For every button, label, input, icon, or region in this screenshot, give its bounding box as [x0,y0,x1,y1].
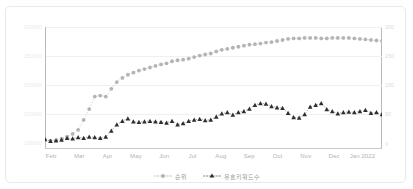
data-point-triangle [225,110,230,114]
left-y-tick: 250000 [8,53,42,59]
data-point-triangle [264,102,269,106]
data-point-triangle [131,119,136,123]
data-point-circle [137,69,141,73]
data-point-triangle [203,118,208,122]
chart-legend: 순위 유효키워드수 [6,169,407,183]
data-point-circle [380,39,382,43]
x-tick-label: Jul [189,153,197,159]
data-point-circle [281,38,285,42]
data-point-circle [242,44,246,48]
data-point-circle [104,95,108,99]
x-tick-label: Aug [215,153,226,159]
right-y-axis: 200 150 100 50 0 [385,27,413,149]
data-point-circle [154,64,158,68]
data-point-circle [214,50,218,54]
data-point-circle [126,73,130,77]
data-point-circle [115,80,119,84]
data-point-circle [248,43,252,47]
circle-marker-icon [154,172,172,180]
data-point-triangle [81,136,86,140]
data-point-circle [264,41,268,45]
legend-item-keywords[interactable]: 유효키워드수 [203,172,260,181]
series-유효키워드수 [45,101,382,143]
data-point-triangle [324,107,329,111]
data-point-triangle [208,117,213,121]
data-point-circle [87,107,91,111]
legend-label-rank: 순위 [175,172,187,181]
right-y-tick: 200 [385,24,411,30]
data-point-circle [292,37,296,41]
data-point-circle [336,36,340,40]
data-point-triangle [115,122,120,126]
data-point-triangle [253,103,258,107]
data-point-circle [109,87,113,91]
x-tick-label: May [130,153,142,159]
data-point-circle [159,62,163,66]
data-point-triangle [269,104,274,108]
x-tick-label: Dec [329,153,340,159]
data-point-circle [231,46,235,50]
data-point-circle [236,45,240,49]
data-point-triangle [231,113,236,117]
data-point-triangle [363,108,368,112]
data-point-circle [120,76,124,80]
data-point-triangle [76,135,81,139]
series-순위 [45,36,382,143]
data-point-circle [341,36,345,40]
series-line [45,38,382,141]
data-point-circle [325,37,329,41]
data-point-circle [308,36,312,40]
data-point-circle [148,66,152,70]
data-point-triangle [45,137,47,141]
x-tick-label: Oct [273,153,283,159]
data-point-circle [286,37,290,41]
right-y-tick: 0 [385,141,411,147]
data-point-triangle [242,109,247,113]
x-tick-label: Feb [46,153,57,159]
right-y-tick: 150 [385,53,411,59]
data-point-triangle [126,116,131,120]
triangle-marker-icon [203,172,221,180]
data-point-circle [170,59,174,63]
data-point-triangle [286,111,291,115]
x-tick-label: Jun [159,153,169,159]
data-point-circle [375,39,379,43]
left-y-tick: 300000 [8,24,42,30]
legend-label-keywords: 유효키워드수 [224,172,260,181]
data-point-triangle [87,135,92,139]
data-point-circle [369,38,373,42]
data-point-circle [347,36,351,40]
x-tick-label: Apr [103,153,113,159]
data-point-triangle [219,111,224,115]
data-point-circle [181,58,185,62]
data-point-circle [364,38,368,42]
data-point-triangle [181,121,186,125]
x-axis: FebMarAprMayJunJulAugSepOctNovDecJan 202… [45,153,382,165]
data-point-circle [187,57,191,61]
data-point-triangle [297,116,302,120]
legend-item-rank[interactable]: 순위 [154,172,187,181]
data-point-circle [71,132,75,136]
data-point-triangle [120,119,125,123]
chart-card: 300000 250000 200000 150000 100000 200 1… [5,6,406,183]
data-point-triangle [236,110,241,114]
data-point-circle [358,37,362,41]
data-point-triangle [336,111,341,115]
data-point-triangle [214,114,219,118]
data-point-circle [93,95,97,99]
data-point-circle [297,37,301,41]
left-y-tick: 200000 [8,82,42,88]
data-point-triangle [330,109,335,113]
data-point-triangle [247,106,252,110]
data-point-triangle [142,119,147,123]
left-y-tick: 100000 [8,140,42,146]
series-layer [45,27,382,149]
chart-screenshot: 300000 250000 200000 150000 100000 200 1… [0,0,413,189]
x-tick-label: Jan 2022 [350,153,376,159]
data-point-circle [319,37,323,41]
data-point-circle [131,71,135,75]
data-point-circle [203,53,207,57]
data-point-circle [220,48,224,52]
data-point-circle [314,36,318,40]
right-y-tick: 100 [385,82,411,88]
